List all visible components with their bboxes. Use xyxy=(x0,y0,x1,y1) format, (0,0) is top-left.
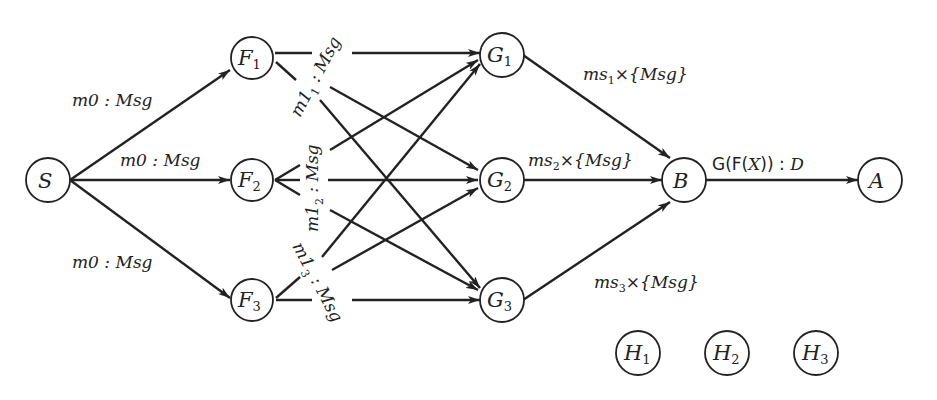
label-b-a: G(F(X)) : D xyxy=(712,154,804,174)
label-s-f2: m0 : Msg xyxy=(120,150,201,170)
node-a: A xyxy=(858,158,902,202)
node-s: S xyxy=(26,158,70,202)
svg-text:A: A xyxy=(867,169,884,193)
label-g1-b: ms1×{Msg} xyxy=(583,64,688,87)
node-g3: G3 xyxy=(480,278,524,322)
node-g1: G1 xyxy=(480,33,524,77)
f2-incoming-stubs xyxy=(275,165,300,195)
edge-f2-g1 xyxy=(330,60,478,150)
svg-text:S: S xyxy=(38,169,52,193)
edge-s-f3 xyxy=(70,180,230,298)
node-h1: H1 xyxy=(616,331,660,375)
node-g2: G2 xyxy=(480,158,524,202)
node-b: B xyxy=(662,158,706,202)
node-h2: H2 xyxy=(705,331,749,375)
label-m1-1: m11 : Msg xyxy=(286,33,348,122)
label-m1-2: m12 : Msg xyxy=(302,144,326,232)
label-g3-b: ms3×{Msg} xyxy=(594,272,699,295)
node-f2: F2 xyxy=(231,159,273,201)
edge-f1-g3 xyxy=(320,100,480,288)
node-f3: F3 xyxy=(231,279,273,321)
label-g2-b: ms2×{Msg} xyxy=(528,150,633,173)
svg-text:B: B xyxy=(672,169,688,193)
label-s-f3: m0 : Msg xyxy=(72,252,153,272)
node-h3: H3 xyxy=(794,331,838,375)
edge-f3-g1 xyxy=(322,64,480,257)
message-flow-diagram: m0 : Msg m0 : Msg m0 : Msg m11 : Msg m12… xyxy=(0,0,937,400)
node-f1: F1 xyxy=(231,37,273,79)
label-s-f1: m0 : Msg xyxy=(72,90,153,110)
